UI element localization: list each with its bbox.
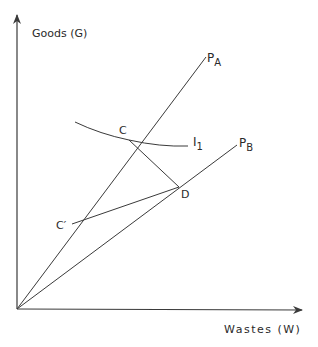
curve-i1-label: I1	[193, 135, 203, 152]
point-cprime-label: C′	[56, 219, 67, 232]
diagram-canvas: Goods (G) Wastes (W) PA PB I1 C D C′	[0, 0, 318, 347]
ray-pb-label: PB	[239, 136, 253, 153]
segment-c-d	[129, 140, 179, 187]
y-axis-label: Goods (G)	[32, 27, 87, 40]
segment-cprime-d	[72, 187, 179, 224]
x-axis	[17, 309, 302, 310]
ray-pb	[17, 145, 237, 309]
point-d-label: D	[181, 188, 189, 201]
x-axis-label: Wastes (W)	[224, 323, 301, 336]
ray-pa-label: PA	[207, 51, 221, 68]
point-c-label: C	[119, 124, 127, 137]
ray-pa	[17, 57, 206, 309]
